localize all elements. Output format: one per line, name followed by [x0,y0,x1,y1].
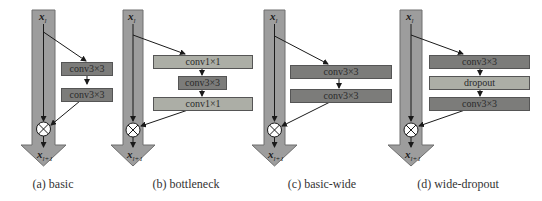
block-conv3x3-d2: conv3×3 [429,97,530,111]
caption-c: (c) basic-wide [288,177,356,192]
input-label-d: xl [406,10,413,25]
circled-times-icon [37,122,51,136]
output-label-a: xl+1 [37,148,53,163]
output-label-b: xl+1 [127,148,143,163]
circled-times-icon [268,123,282,137]
input-label-a: xl [39,10,46,25]
block-conv1x1-b1: conv1×1 [153,55,253,69]
block-conv1x1-b2: conv1×1 [153,97,253,111]
block-conv3x3-a2: conv3×3 [61,88,113,102]
caption-b: (b) bottleneck [153,177,220,192]
block-conv3x3-b: conv3×3 [178,76,227,90]
circled-times-icon [126,123,140,137]
output-label-c: xl+1 [268,148,284,163]
block-conv3x3-c2: conv3×3 [290,89,392,103]
block-conv3x3-c1: conv3×3 [290,65,392,79]
block-conv3x3-d1: conv3×3 [429,55,530,69]
caption-a: (a) basic [33,177,74,192]
circled-times-icon [404,123,418,137]
input-label-b: xl [128,10,135,25]
caption-d: (d) wide-dropout [417,177,499,192]
input-label-c: xl [270,10,277,25]
block-conv3x3-a1: conv3×3 [61,62,113,76]
block-dropout-d: dropout [429,76,530,90]
output-label-d: xl+1 [405,148,421,163]
